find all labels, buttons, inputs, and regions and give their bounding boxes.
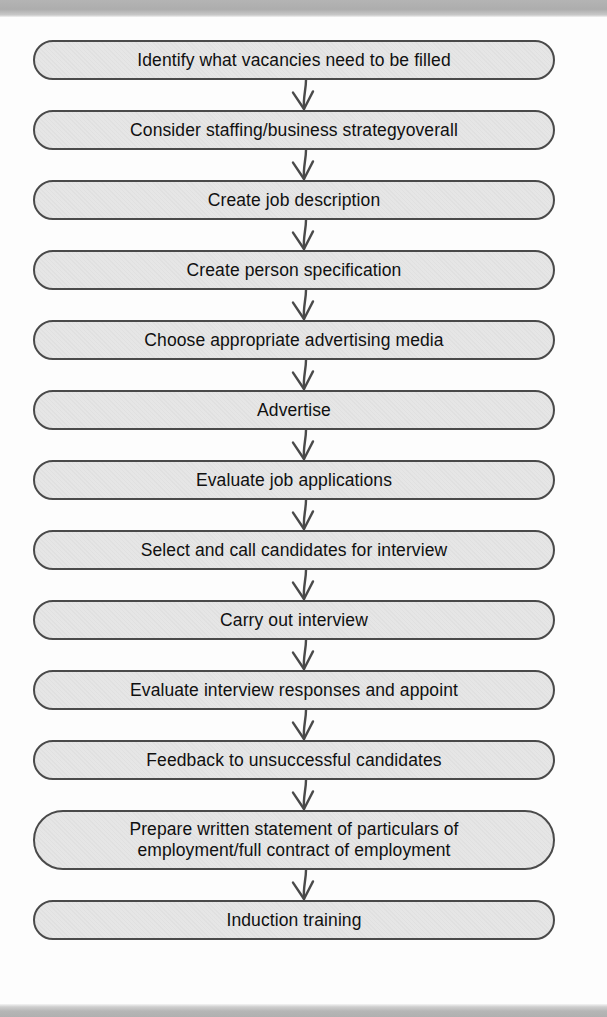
flow-connector-arrow xyxy=(279,500,329,530)
flow-node-label: Feedback to unsuccessful candidates xyxy=(146,750,441,771)
flow-node-13: Induction training xyxy=(33,900,555,940)
flow-connector-arrow xyxy=(279,640,329,670)
flow-connector-arrow xyxy=(279,80,329,110)
flow-node-1: Identify what vacancies need to be fille… xyxy=(33,40,555,80)
flow-node-8: Select and call candidates for interview xyxy=(33,530,555,570)
flow-node-label: Choose appropriate advertising media xyxy=(144,330,443,351)
flow-connector-arrow xyxy=(279,710,329,740)
flow-node-label: Create person specification xyxy=(187,260,402,281)
flow-node-7: Evaluate job applications xyxy=(33,460,555,500)
flow-node-label: Advertise xyxy=(257,400,331,421)
flow-connector-arrow xyxy=(279,570,329,600)
flow-connector-arrow xyxy=(279,780,329,810)
flow-node-label: Evaluate interview responses and appoint xyxy=(130,680,458,701)
flow-node-12: Prepare written statement of particulars… xyxy=(33,810,555,870)
flow-connector-arrow xyxy=(279,870,329,900)
flow-connector-arrow xyxy=(279,150,329,180)
flow-node-label: Carry out interview xyxy=(220,610,368,631)
flow-node-label: Consider staffing/business strategyovera… xyxy=(130,120,458,141)
recruitment-flowchart: Identify what vacancies need to be fille… xyxy=(0,17,607,1004)
flow-node-2: Consider staffing/business strategyovera… xyxy=(33,110,555,150)
flow-node-label: Identify what vacancies need to be fille… xyxy=(137,50,450,71)
flow-node-11: Feedback to unsuccessful candidates xyxy=(33,740,555,780)
flow-node-5: Choose appropriate advertising media xyxy=(33,320,555,360)
flow-node-9: Carry out interview xyxy=(33,600,555,640)
scan-edge-band-bottom xyxy=(0,1004,607,1017)
flow-connector-arrow xyxy=(279,360,329,390)
flow-node-label: Select and call candidates for interview xyxy=(141,540,448,561)
scan-edge-band-top xyxy=(0,0,607,17)
flow-node-label: Induction training xyxy=(226,910,361,931)
flow-connector-arrow xyxy=(279,290,329,320)
flow-node-3: Create job description xyxy=(33,180,555,220)
flow-node-label: Prepare written statement of particulars… xyxy=(129,819,458,860)
flow-node-label: Evaluate job applications xyxy=(196,470,392,491)
flow-node-label: Create job description xyxy=(208,190,380,211)
flow-connector-arrow xyxy=(279,220,329,250)
flow-connector-arrow xyxy=(279,430,329,460)
flow-node-6: Advertise xyxy=(33,390,555,430)
flow-node-4: Create person specification xyxy=(33,250,555,290)
flow-node-10: Evaluate interview responses and appoint xyxy=(33,670,555,710)
scanned-page: Identify what vacancies need to be fille… xyxy=(0,0,607,1017)
